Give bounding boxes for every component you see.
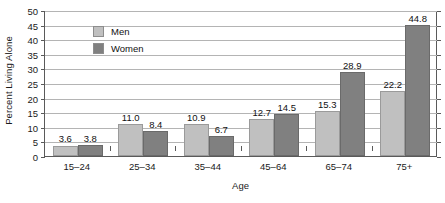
y-tick-label: 20 bbox=[12, 95, 38, 105]
gridline bbox=[45, 128, 437, 129]
bar-value-label: 8.4 bbox=[137, 120, 174, 130]
bar-value-label: 44.8 bbox=[399, 14, 436, 24]
y-tick-label: 5 bbox=[12, 138, 38, 148]
bar-women bbox=[274, 114, 299, 156]
bar-men bbox=[53, 146, 78, 157]
category-separator-tick bbox=[241, 146, 242, 151]
legend-item-women: Women bbox=[93, 42, 144, 55]
y-tick-label: 45 bbox=[12, 22, 38, 32]
gridline bbox=[45, 11, 437, 12]
y-tick-mark-right bbox=[437, 55, 441, 56]
bar-men bbox=[249, 119, 274, 156]
legend-swatch-women-icon bbox=[93, 43, 104, 54]
y-tick-mark bbox=[41, 40, 45, 41]
bar-value-label: 6.7 bbox=[203, 125, 240, 135]
category-separator-tick bbox=[175, 146, 176, 151]
legend-item-men: Men bbox=[93, 25, 144, 38]
legend-label-women: Women bbox=[111, 44, 144, 54]
bar-value-label: 28.9 bbox=[334, 61, 371, 71]
x-axis-title: Age bbox=[44, 180, 437, 191]
category-separator-tick bbox=[306, 146, 307, 151]
bar-women bbox=[78, 145, 103, 156]
legend-swatch-men-icon bbox=[93, 26, 104, 37]
y-tick-mark-right bbox=[437, 26, 441, 27]
y-tick-label: 30 bbox=[12, 65, 38, 75]
y-tick-mark bbox=[41, 128, 45, 129]
y-tick-label: 15 bbox=[12, 109, 38, 119]
x-tick-label: 75+ bbox=[364, 162, 444, 172]
y-tick-mark-right bbox=[437, 69, 441, 70]
y-tick-label: 50 bbox=[12, 7, 38, 17]
y-tick-mark bbox=[41, 11, 45, 12]
bar-value-label: 14.5 bbox=[268, 103, 305, 113]
y-tick-mark-right bbox=[437, 40, 441, 41]
y-tick-mark-right bbox=[437, 113, 441, 114]
y-tick-label: 40 bbox=[12, 36, 38, 46]
bar-value-label: 3.8 bbox=[72, 134, 109, 144]
y-tick-mark bbox=[41, 142, 45, 143]
y-tick-mark-right bbox=[437, 142, 441, 143]
plot-area: 3.63.811.08.410.96.712.714.515.328.922.2… bbox=[44, 11, 437, 157]
bar-value-label: 22.2 bbox=[374, 80, 411, 90]
category-separator-tick bbox=[110, 146, 111, 151]
y-tick-mark-right bbox=[437, 128, 441, 129]
bar-value-label: 15.3 bbox=[309, 100, 346, 110]
y-tick-mark bbox=[41, 84, 45, 85]
y-tick-mark-right bbox=[437, 84, 441, 85]
y-tick-mark bbox=[41, 157, 45, 158]
gridline bbox=[45, 69, 437, 70]
y-tick-mark-right bbox=[437, 11, 441, 12]
bar-women bbox=[405, 25, 430, 156]
bar-women bbox=[209, 136, 234, 156]
gridline bbox=[45, 113, 437, 114]
y-tick-mark bbox=[41, 55, 45, 56]
gridline bbox=[45, 99, 437, 100]
category-separator-tick bbox=[372, 146, 373, 151]
bar-value-label: 10.9 bbox=[178, 113, 215, 123]
bar-chart: Percent Living Alone 0510152025303540455… bbox=[0, 0, 445, 203]
y-tick-mark-right bbox=[437, 99, 441, 100]
legend-label-men: Men bbox=[111, 27, 129, 37]
y-tick-mark-right bbox=[437, 157, 441, 158]
bar-women bbox=[340, 72, 365, 156]
y-tick-label: 10 bbox=[12, 124, 38, 134]
bar-men bbox=[315, 111, 340, 156]
y-tick-label: 35 bbox=[12, 51, 38, 61]
y-tick-label: 0 bbox=[12, 153, 38, 163]
bar-women bbox=[143, 131, 168, 156]
y-tick-mark bbox=[41, 69, 45, 70]
bar-men bbox=[380, 91, 405, 156]
y-tick-mark bbox=[41, 99, 45, 100]
y-tick-mark bbox=[41, 26, 45, 27]
y-tick-mark bbox=[41, 113, 45, 114]
legend: Men Women bbox=[93, 25, 144, 59]
y-tick-label: 25 bbox=[12, 80, 38, 90]
